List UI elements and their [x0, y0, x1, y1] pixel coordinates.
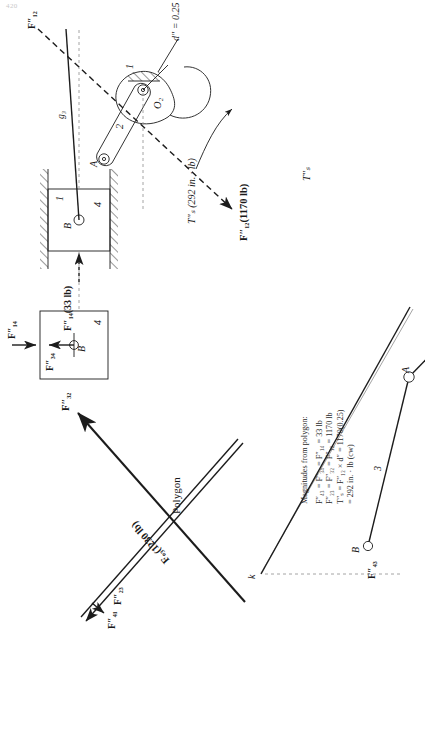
crank-assembly — [0, 29, 410, 729]
label-f12: F″₁₂ — [26, 11, 37, 29]
label-g3: g₃ — [56, 111, 66, 119]
label-link4-slider: 4 — [92, 202, 103, 207]
label-torque-value: T″ₛ (292 in. · lb) — [186, 158, 197, 224]
label-a-crank: A — [88, 161, 99, 167]
label-link4-fbd: 4 — [92, 320, 103, 325]
magnitudes-heading: Magnitudes from polygon: — [300, 409, 311, 504]
label-link3-skeleton: 3 — [372, 466, 383, 471]
label-f14-33: F″₁₄(33 lb) — [62, 286, 73, 331]
label-f43: F″₄₃ — [366, 561, 377, 579]
label-o2: O₂ — [152, 98, 163, 109]
magnitudes-line-4: = 292 in. · lb (cw) — [346, 409, 357, 504]
label-offset-d: d″ = 0.25 in. — [170, 0, 181, 41]
label-b-fbd: B — [76, 346, 87, 352]
magnitudes-line-1: F″₄₃ = F″₃₄ = F″₁₄ = 33 lb — [315, 409, 326, 504]
label-k: k — [246, 575, 257, 579]
page-folio: 420 — [6, 2, 18, 10]
label-link2: 2 — [114, 124, 125, 129]
label-b-skeleton: B — [350, 547, 361, 553]
label-f14-fbd: F″₁₄ — [6, 321, 17, 339]
label-torque: T″ₛ — [300, 167, 312, 181]
label-f34-fbd: F″₃₄ — [44, 353, 55, 371]
magnitudes-block: Magnitudes from polygon: F″₄₃ = F″₃₄ = F… — [300, 409, 357, 504]
label-f41: F″₄₁ — [106, 611, 117, 629]
label-f23-polygon: F″₂₃ — [112, 587, 123, 605]
label-link1-slider: 1 — [54, 196, 65, 201]
label-link1-frame: 1 — [124, 64, 135, 69]
label-f32: F″₃₂ — [60, 392, 71, 411]
polygon-caption: Polygon — [170, 477, 182, 514]
label-b-slider: B — [62, 223, 73, 229]
magnitudes-line-3: T″ₛ = F″₁₂ × d″ = 1170(0.25) — [336, 409, 347, 504]
figure-canvas: Polygon F″₃₂ Fₒ₃(1230 lb) F″₂₃ F″₄₁ k B … — [0, 29, 410, 729]
magnitudes-line-2: F″₂₃ = F″₃₂ = F″₁₂ = 1170 lb — [325, 409, 336, 504]
figure-page: 420 — [0, 0, 425, 729]
label-a-skeleton: A — [400, 367, 411, 373]
frame-support — [128, 72, 160, 81]
label-f12-1170: F″₁₂(1170 lb) — [238, 184, 249, 241]
